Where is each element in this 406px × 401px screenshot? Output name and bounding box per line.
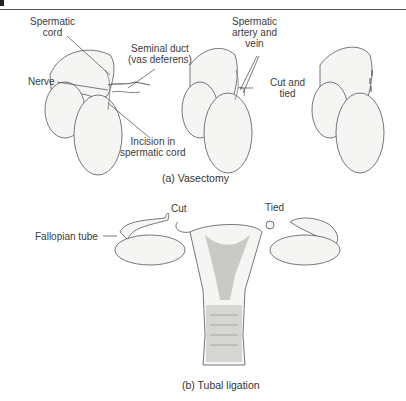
right-fallopian-tube xyxy=(266,218,340,265)
label-line: (vas deferens) xyxy=(128,54,192,65)
caption-tubal-ligation: (b) Tubal ligation xyxy=(182,379,260,391)
label-cut: Cut xyxy=(171,203,187,214)
illustration xyxy=(0,0,406,401)
vasectomy-drawing-3 xyxy=(312,47,384,173)
label-line: vein xyxy=(232,38,277,49)
label-fallopian-tube: Fallopian tube xyxy=(35,231,98,242)
label-line: tied xyxy=(270,88,305,99)
label-tied: Tied xyxy=(265,202,284,213)
vasectomy-drawing-2 xyxy=(182,48,252,173)
label-line: Incision in xyxy=(120,136,186,147)
label-line: spermatic cord xyxy=(120,147,186,158)
label-incision: Incision in spermatic cord xyxy=(120,136,186,158)
label-spermatic-cord: Spermatic cord xyxy=(30,16,75,38)
label-line: Cut and xyxy=(270,77,305,88)
label-cut-and-tied: Cut and tied xyxy=(270,77,305,99)
label-spermatic-artery: Spermatic artery and vein xyxy=(232,16,277,49)
caption-vasectomy: (a) Vasectomy xyxy=(162,172,229,184)
label-seminal-duct: Seminal duct (vas deferens) xyxy=(128,43,192,65)
label-nerve: Nerve xyxy=(28,76,55,87)
label-line: Seminal duct xyxy=(128,43,192,54)
label-line: cord xyxy=(30,27,75,38)
label-line: Spermatic xyxy=(232,16,277,27)
label-line: Spermatic xyxy=(30,16,75,27)
left-fallopian-tube xyxy=(115,213,190,265)
label-line: artery and xyxy=(232,27,277,38)
uterus-drawing xyxy=(190,225,262,366)
